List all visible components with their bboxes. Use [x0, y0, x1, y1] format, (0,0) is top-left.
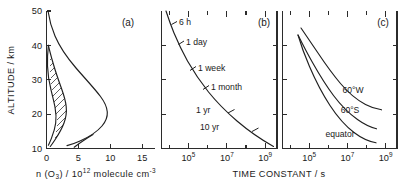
panel-b-annotation-10yr: 10 yr [200, 122, 219, 132]
panel-a-xlabel-post: molecule cm [91, 169, 150, 179]
figure-root: (a) 10 20 30 40 50 0 5 10 15 ALTITUDE / … [0, 0, 413, 192]
panel-a-ytick-40: 40 [32, 41, 42, 51]
panel-b-annotation-6h: 6 h [179, 17, 191, 27]
panel-b-annotation-1month: 1 month [211, 82, 242, 92]
panel-a-ytick-20: 20 [32, 109, 42, 119]
panel-a-xlabel-sup1: 12 [83, 167, 91, 174]
panel-a-lower-branch-curve [74, 135, 93, 148]
panel-a-ytick-50: 50 [32, 6, 42, 16]
panel-b-axis [162, 11, 278, 149]
panel-c-y-ticks-right [393, 45, 398, 114]
panel-b-annotation-1week: 1 week [198, 63, 226, 73]
panel-c-xtick-1e7: 107 [341, 151, 355, 163]
panel-b-xtick-1e7: 107 [220, 151, 234, 163]
panel-a-xtick-10: 10 [105, 153, 115, 163]
panel-a-xtick-15: 15 [137, 153, 147, 163]
panel-c-label-equator: equator [325, 129, 354, 139]
panel-b-x-ticks [169, 143, 265, 149]
panel-b-y-ticks-right [273, 45, 278, 114]
panel-a: (a) 10 20 30 40 50 0 5 10 15 ALTITUDE / … [6, 6, 156, 180]
panel-a-label: (a) [122, 17, 134, 28]
figure-svg: (a) 10 20 30 40 50 0 5 10 15 ALTITUDE / … [0, 0, 413, 192]
panel-b-annotation-1day: 1 day [186, 37, 208, 47]
panel-c: 60°W 60°S equator (c) 105 107 109 [283, 11, 398, 163]
panel-b-annotation-1yr: 1 yr [196, 105, 210, 115]
panel-a-ytick-10: 10 [32, 144, 42, 154]
panel-c-xtick-1e5: 105 [302, 151, 316, 163]
panel-a-xtick-5: 5 [76, 153, 81, 163]
panel-a-ylabel: ALTITUDE / km [6, 46, 16, 115]
panel-b-lifetime-curve [166, 11, 274, 147]
panel-c-y-ticks [283, 45, 288, 114]
panel-b: 6 h 1 day 1 week 1 month 1 yr 10 yr (b) … [162, 11, 278, 163]
panel-a-xlabel: n (O3) / 1012 molecule cm-3 [36, 167, 156, 180]
panel-b-y-ticks [162, 45, 167, 114]
panel-a-ytick-30: 30 [32, 75, 42, 85]
panel-a-xtick-0: 0 [44, 153, 49, 163]
panel-c-label-60s: 60°S [341, 105, 360, 115]
panel-c-curve-60w [301, 28, 382, 110]
panel-c-curve-equator [298, 35, 376, 143]
panel-a-xlabel-mid: ) / 10 [59, 169, 82, 179]
panel-c-label-60w: 60°W [342, 85, 364, 95]
panel-c-x-ticks [290, 143, 386, 149]
panel-b-curve-ticks [172, 22, 259, 132]
panel-a-x-ticks [47, 144, 143, 149]
panel-a-xlabel-sup2: -3 [150, 167, 157, 174]
panel-b-label: (b) [258, 17, 270, 28]
panel-b-xtick-1e9: 109 [258, 151, 272, 163]
panel-a-band-upper-curve [48, 45, 66, 146]
panel-c-xtick-1e9: 109 [379, 151, 393, 163]
panel-c-label: (c) [377, 17, 389, 28]
panel-b-xtick-1e5: 105 [182, 151, 196, 163]
shared-xlabel: TIME CONSTANT / s [232, 169, 325, 179]
panel-a-xlabel-pre: n (O [36, 169, 55, 179]
panel-c-axis [283, 11, 398, 149]
panel-c-x-ticks-top [290, 11, 386, 17]
